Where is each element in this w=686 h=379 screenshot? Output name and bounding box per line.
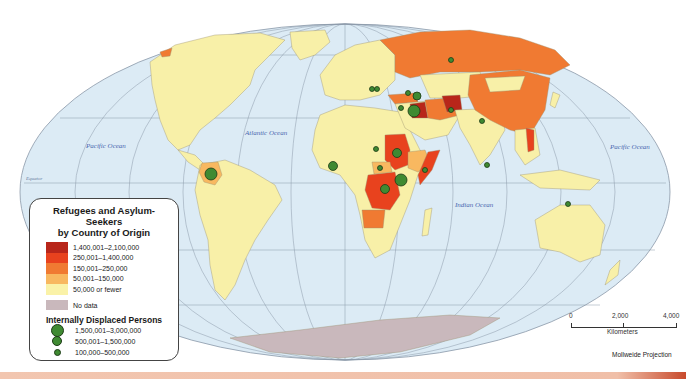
- idp-georgia: [406, 91, 411, 96]
- idp-bosnia: [375, 87, 380, 92]
- idp-colombia: [205, 168, 217, 180]
- idp-small-dot-icon: [54, 349, 61, 356]
- legend-title-line2: by Country of Origin: [38, 227, 170, 238]
- legend-label-3: 150,001–250,000: [73, 265, 128, 272]
- ocean-label-indian: Indian Ocean: [454, 201, 494, 209]
- legend-swatch-4: [46, 274, 68, 285]
- ocean-label-atlantic: Atlantic Ocean: [244, 129, 288, 137]
- legend-idp-class-3: 100,000–500,000: [38, 347, 170, 358]
- idp-ivory-coast: [329, 162, 338, 171]
- idp-drc: [381, 185, 390, 194]
- idp-medium-dot-icon: [52, 336, 62, 346]
- idp-serbia: [370, 87, 375, 92]
- ocean-label-pacific-west: Pacific Ocean: [85, 142, 126, 150]
- legend-label-5: 50,000 or fewer: [73, 286, 122, 293]
- legend-swatch-1: [46, 242, 68, 253]
- equator-label: Equator: [25, 176, 42, 181]
- idp-syria: [399, 106, 404, 111]
- angola: [362, 210, 385, 228]
- legend-idp-class-2: 500,001–1,500,000: [38, 336, 170, 347]
- legend-label-1: 1,400,001–2,100,000: [73, 244, 139, 251]
- scale-bar-mid-tick: [623, 323, 624, 327]
- idp-indonesia: [566, 202, 571, 207]
- legend: Refugees and Asylum-Seekers by Country o…: [29, 198, 179, 361]
- idp-uganda: [395, 174, 407, 186]
- idp-afghanistan: [449, 108, 454, 113]
- scale-tick-0: 0: [569, 312, 573, 319]
- legend-label-4: 50,001–150,000: [73, 275, 124, 282]
- legend-idp-label-3: 100,000–500,000: [75, 349, 130, 356]
- legend-swatch-3: [46, 263, 68, 274]
- idp-chad: [374, 147, 379, 152]
- legend-label-no-data: No data: [73, 302, 98, 309]
- legend-idp-class-1: 1,500,001–3,000,000: [38, 325, 170, 336]
- legend-swatch-2: [46, 253, 68, 264]
- idp-large-dot-icon: [51, 324, 64, 337]
- scale-tick-2: 4,000: [663, 312, 679, 319]
- legend-swatch-5: [46, 284, 68, 295]
- legend-idp-label-2: 500,001–1,500,000: [75, 338, 135, 345]
- idp-sudan: [393, 149, 402, 158]
- legend-label-2: 250,001–1,400,000: [73, 254, 133, 261]
- idp-russia: [449, 58, 454, 63]
- scale-tick-1: 2,000: [612, 312, 628, 319]
- legend-class-2: 250,001–1,400,000: [38, 253, 170, 264]
- idp-car: [378, 166, 383, 171]
- scale-unit: Kilometers: [607, 328, 638, 335]
- mongolia: [485, 76, 525, 92]
- legend-no-data: No data: [38, 300, 170, 311]
- russia: [380, 30, 570, 78]
- legend-title-line1: Refugees and Asylum-Seekers: [38, 205, 170, 227]
- bottom-decorative-band: [0, 372, 686, 379]
- legend-class-4: 50,001–150,000: [38, 274, 170, 285]
- scale-bar: 0 2,000 4,000 Kilometers: [567, 312, 677, 342]
- idp-nepal: [480, 119, 485, 124]
- alaska: [160, 48, 172, 57]
- idp-azerbaijan: [413, 92, 421, 100]
- legend-swatch-no-data: [46, 300, 68, 311]
- idp-somalia: [423, 168, 428, 173]
- projection-label: Mollweide Projection: [612, 351, 672, 358]
- legend-class-5: 50,000 or fewer: [38, 284, 170, 295]
- ocean-label-pacific-east: Pacific Ocean: [609, 143, 650, 151]
- idp-sri-lanka: [485, 163, 490, 168]
- legend-class-1: 1,400,001–2,100,000: [38, 242, 170, 253]
- legend-idp-label-1: 1,500,001–3,000,000: [75, 327, 141, 334]
- idp-iraq: [408, 105, 420, 117]
- legend-class-3: 150,001–250,000: [38, 263, 170, 274]
